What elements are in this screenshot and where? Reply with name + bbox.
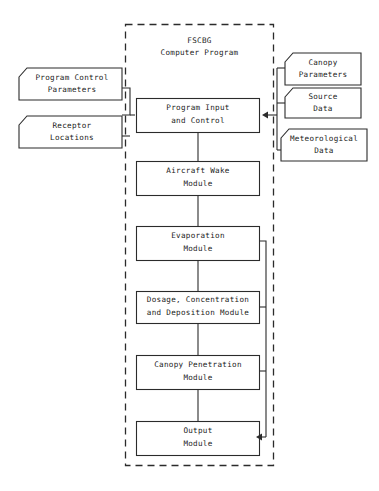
- program-control-parameters-line1: Program Control: [35, 73, 108, 82]
- program-control-parameters-line2: Parameters: [48, 85, 97, 94]
- arrow-head-right-into-program-input: [262, 112, 268, 119]
- program-input-line2: and Control: [171, 116, 225, 125]
- program-title-line2: Computer Program: [161, 48, 239, 57]
- connector-evaporation-feedback-bus: [260, 241, 267, 437]
- output-line2: Module: [183, 439, 212, 448]
- dosage-line2: and Deposition Module: [147, 308, 249, 317]
- program-input-line1: Program Input: [166, 103, 229, 112]
- aircraft-wake-line2: Module: [183, 179, 212, 188]
- source-data-line2: Data: [313, 104, 333, 113]
- dosage-line1: Dosage, Concentration: [147, 295, 249, 304]
- meteorological-data-line1: Meteorological: [290, 134, 358, 143]
- receptor-locations-line2: Locations: [50, 133, 94, 142]
- canopy-parameters-line1: Canopy: [308, 58, 337, 67]
- evaporation-line2: Module: [183, 244, 212, 253]
- canopy-penetration-line1: Canopy Penetration: [154, 360, 242, 369]
- aircraft-wake-line1: Aircraft Wake: [166, 166, 229, 175]
- meteorological-data-line2: Data: [314, 146, 334, 155]
- flowchart-canvas: FSCBG Computer Program Program Control P…: [0, 0, 379, 491]
- canopy-parameters-line2: Parameters: [299, 70, 348, 79]
- program-title-line1: FSCBG: [187, 36, 211, 45]
- source-data-line1: Source: [308, 92, 337, 101]
- canopy-penetration-line2: Module: [183, 373, 212, 382]
- evaporation-line1: Evaporation: [171, 231, 225, 240]
- receptor-locations-line1: Receptor: [53, 121, 92, 130]
- fscbg-flowchart-diagram: FSCBG Computer Program Program Control P…: [0, 0, 379, 491]
- output-line1: Output: [183, 426, 212, 435]
